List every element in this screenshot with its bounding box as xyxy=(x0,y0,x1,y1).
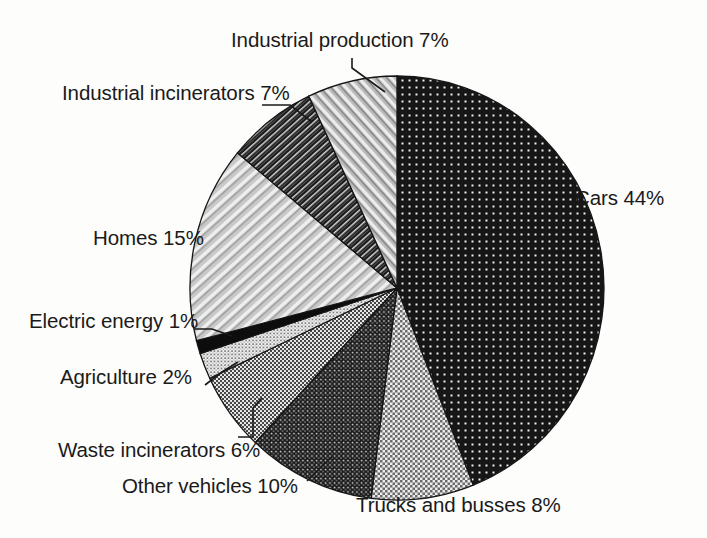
slice-label-other-vehicles: Other vehicles 10% xyxy=(122,476,298,497)
slice-label-agriculture: Agriculture 2% xyxy=(60,367,192,388)
pie-chart-figure: Cars 44%Trucks and busses 8%Other vehicl… xyxy=(0,0,707,538)
slice-label-electric-energy: Electric energy 1% xyxy=(29,311,198,332)
slice-label-cars: Cars 44% xyxy=(575,188,664,209)
slice-label-waste-incinerators: Waste incinerators 6% xyxy=(58,440,260,461)
slice-label-homes: Homes 15% xyxy=(93,228,204,249)
slice-label-industrial-incinerators: Industrial incinerators 7% xyxy=(62,83,290,104)
slice-label-industrial-production: Industrial production 7% xyxy=(231,30,449,51)
slice-label-trucks-and-busses: Trucks and busses 8% xyxy=(356,495,561,516)
